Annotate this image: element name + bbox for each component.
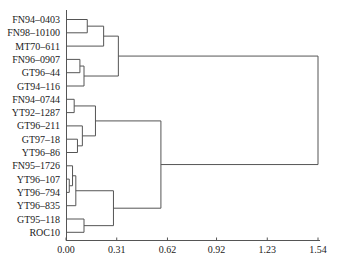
leaf-label: YT96–835 bbox=[17, 200, 60, 211]
dendrogram-figure: FN94–0403FN98–10100MT70–611FN96–0907GT96… bbox=[0, 0, 338, 263]
x-tick-label: 0.31 bbox=[108, 244, 126, 255]
leaf-label: MT70–611 bbox=[15, 41, 60, 52]
x-tick-label: 0.00 bbox=[57, 244, 75, 255]
leaf-label: GT95–118 bbox=[17, 214, 60, 225]
x-tick-label: 0.92 bbox=[208, 244, 226, 255]
leaf-label: YT96–794 bbox=[17, 187, 60, 198]
x-tick-label: 1.23 bbox=[259, 244, 277, 255]
x-tick-label: 0.62 bbox=[159, 244, 177, 255]
leaf-label: GT97–18 bbox=[22, 134, 60, 145]
leaf-label: ROC10 bbox=[29, 227, 60, 238]
leaf-label: YT96–107 bbox=[17, 174, 60, 185]
leaf-label: GT96–211 bbox=[17, 120, 60, 131]
leaf-label: YT96–86 bbox=[22, 147, 60, 158]
leaf-label: FN94–0744 bbox=[12, 94, 60, 105]
leaf-label: FN98–10100 bbox=[7, 27, 60, 38]
x-tick-label: 1.54 bbox=[309, 244, 327, 255]
dendrogram-chart: FN94–0403FN98–10100MT70–611FN96–0907GT96… bbox=[0, 0, 338, 263]
leaf-label: YT92–1287 bbox=[12, 107, 60, 118]
leaf-label: FN96–0907 bbox=[12, 54, 60, 65]
leaf-label: FN94–0403 bbox=[12, 14, 60, 25]
leaf-label: GT96–44 bbox=[22, 67, 60, 78]
leaf-label: FN95–1726 bbox=[12, 160, 60, 171]
leaf-label: GT94–116 bbox=[17, 81, 60, 92]
